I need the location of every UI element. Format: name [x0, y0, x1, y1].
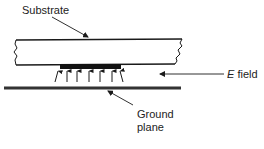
microstrip-diagram: Substrate E field Ground plane [0, 0, 264, 149]
substrate-label: Substrate [22, 4, 69, 16]
ground-plane-label-line2: plane [137, 121, 164, 133]
ground-plane-pointer [108, 91, 133, 105]
substrate-slab [14, 39, 182, 65]
e-field-arrows [55, 71, 123, 82]
ground-plane-label-line1: Ground [137, 108, 174, 120]
substrate-pointer [52, 17, 88, 37]
strip-conductor [60, 64, 121, 69]
e-field-word: field [234, 68, 257, 80]
e-field-label: E field [227, 68, 258, 80]
